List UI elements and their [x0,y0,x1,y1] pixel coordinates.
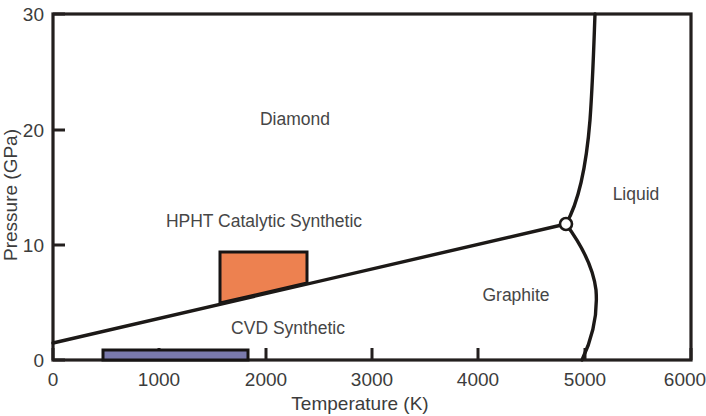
graphite-liquid-boundary [566,224,596,360]
y-axis-tick-labels: 0 10 20 30 [23,4,44,371]
x-tick-label-2000: 2000 [245,369,287,390]
phase-diagram-svg: 0 1000 2000 3000 4000 5000 6000 0 10 20 … [0,0,706,416]
y-tick-label-30: 30 [23,4,44,25]
x-axis-title: Temperature (K) [291,393,428,414]
cvd-synthetic-region [103,350,248,360]
x-tick-label-0: 0 [48,369,59,390]
region-label-diamond: Diamond [260,109,330,129]
x-tick-label-6000: 6000 [664,369,706,390]
x-tick-label-1000: 1000 [138,369,180,390]
x-tick-label-4000: 4000 [457,369,499,390]
y-axis-title: Pressure (GPa) [0,129,21,261]
diamond-liquid-boundary [566,14,595,224]
carbon-phase-diagram-figure: 0 1000 2000 3000 4000 5000 6000 0 10 20 … [0,0,706,416]
region-label-liquid: Liquid [613,184,660,204]
y-axis-ticks [53,14,65,360]
y-tick-label-20: 20 [23,120,44,141]
x-tick-label-5000: 5000 [564,369,606,390]
region-label-graphite: Graphite [482,285,549,305]
y-tick-label-10: 10 [23,235,44,256]
x-tick-label-3000: 3000 [351,369,393,390]
region-label-cvd: CVD Synthetic [231,318,345,338]
region-label-hpht: HPHT Catalytic Synthetic [166,211,362,231]
x-axis-tick-labels: 0 1000 2000 3000 4000 5000 6000 [48,369,706,390]
y-tick-label-0: 0 [33,350,44,371]
triple-point-marker [560,218,572,230]
